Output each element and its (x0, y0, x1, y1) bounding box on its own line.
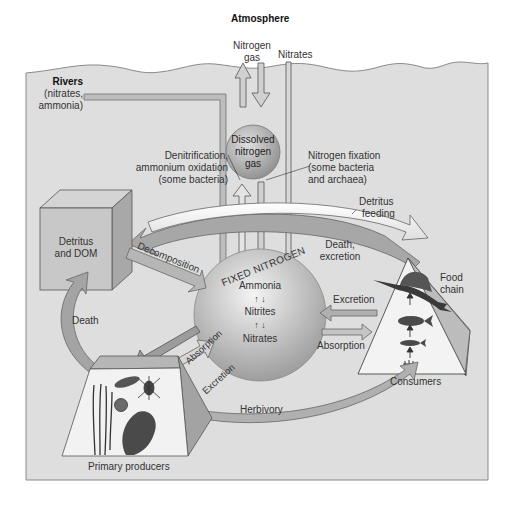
nitrogen-fixation-label: Nitrogen fixation (some bacteria and arc… (308, 150, 380, 186)
ammonia-nitrites-arrows: ↑ ↓ (232, 293, 288, 305)
death-label: Death (72, 315, 99, 327)
herbivory-label: Herbivory (240, 404, 283, 416)
ammonia-label: Ammonia (232, 280, 288, 292)
nitrites-label: Nitrites (232, 306, 288, 318)
nitrites-nitrates-arrows: ↑ ↓ (232, 319, 288, 331)
detritus-dom-label: Detritus and DOM (44, 236, 108, 260)
consumers-label: Consumers (390, 376, 441, 388)
primary-producers-label: Primary producers (88, 461, 170, 473)
food-chain-label: Food chain (440, 272, 464, 296)
death-excretion-label: Death, excretion (310, 239, 370, 263)
absorption-right-label: Absorption (317, 340, 365, 352)
excretion-right-label: Excretion (333, 294, 375, 306)
detritus-feeding-label: Detritus feeding (357, 196, 395, 220)
nitrates-inner-label: Nitrates (232, 333, 288, 345)
